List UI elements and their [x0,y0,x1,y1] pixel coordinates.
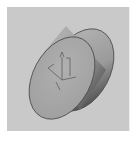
model-preview-canvas [0,0,137,141]
